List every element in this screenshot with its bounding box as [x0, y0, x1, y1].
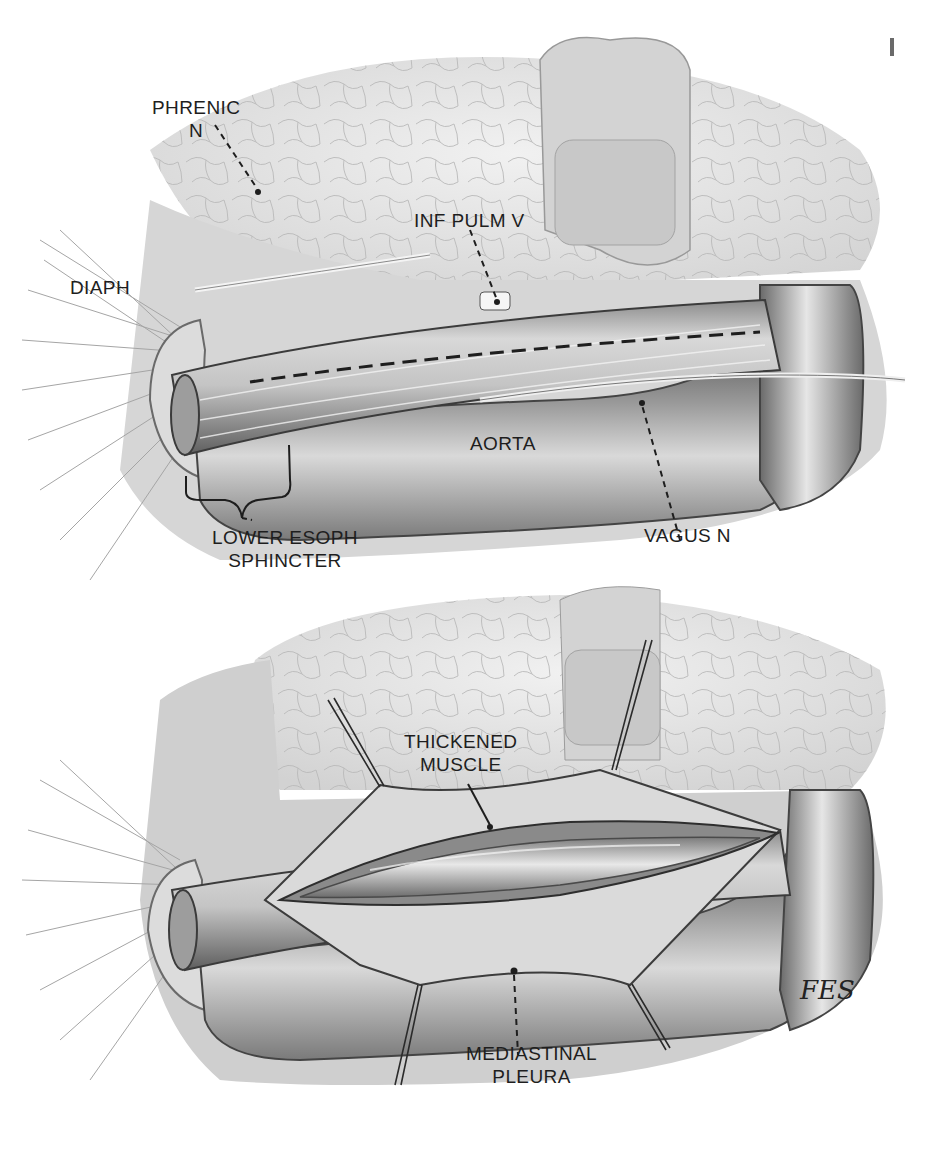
label-thickened-line2: MUSCLE: [404, 753, 517, 776]
bottom-panel: [22, 587, 886, 1085]
label-aorta: AORTA: [470, 432, 536, 455]
registration-mark: [890, 38, 894, 56]
label-thickened-line1: THICKENED: [404, 730, 517, 753]
label-les-line2: SPHINCTER: [212, 549, 358, 572]
label-vagus-nerve: VAGUS N: [644, 524, 731, 547]
label-diaph: DIAPH: [70, 276, 130, 299]
label-inf-pulm-v: INF PULM V: [414, 209, 525, 232]
label-mp-line1: MEDIASTINAL: [466, 1042, 597, 1065]
artist-signature: FES: [800, 975, 855, 1005]
label-vagus-text: VAGUS N: [644, 524, 731, 547]
label-lower-esoph-sphincter: LOWER ESOPH SPHINCTER: [212, 526, 358, 572]
label-phrenic-nerve: PHRENIC N: [152, 96, 240, 142]
label-phrenic-line2: N: [152, 119, 240, 142]
label-diaph-text: DIAPH: [70, 276, 130, 299]
label-thickened-muscle: THICKENED MUSCLE: [404, 730, 517, 776]
label-inf-pulm-v-text: INF PULM V: [414, 209, 525, 232]
label-les-line1: LOWER ESOPH: [212, 526, 358, 549]
label-mediastinal-pleura: MEDIASTINAL PLEURA: [466, 1042, 597, 1088]
label-aorta-text: AORTA: [470, 432, 536, 455]
label-phrenic-line1: PHRENIC: [152, 96, 240, 119]
label-mp-line2: PLEURA: [466, 1065, 597, 1088]
